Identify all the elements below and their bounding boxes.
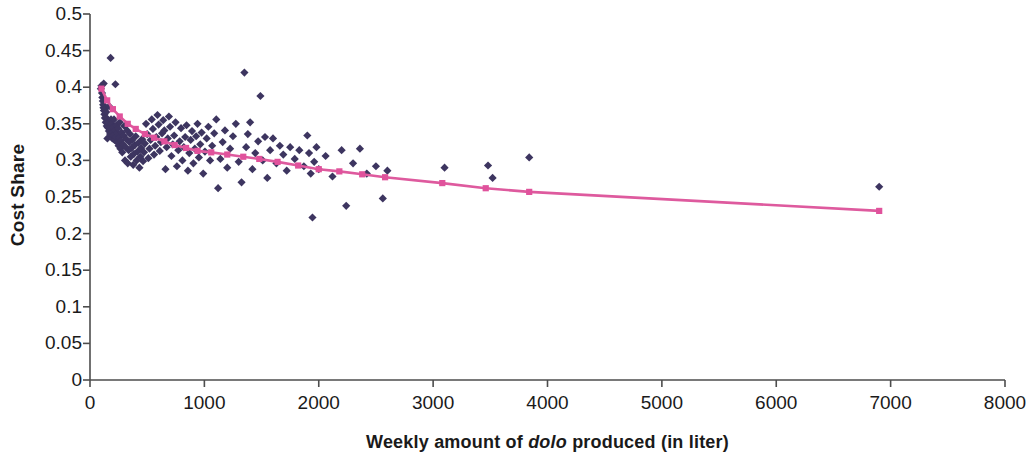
scatter-point bbox=[161, 165, 169, 173]
scatter-point bbox=[216, 155, 224, 163]
trend-line-marker bbox=[194, 148, 200, 154]
scatter-point bbox=[379, 194, 387, 202]
trend-line-marker bbox=[295, 162, 301, 168]
scatter-point bbox=[196, 140, 204, 148]
scatter-point bbox=[276, 142, 284, 150]
trend-line-marker bbox=[876, 208, 882, 214]
x-axis-tick-label: 6000 bbox=[731, 392, 821, 414]
x-axis-title-before: Weekly amount of bbox=[366, 432, 528, 452]
scatter-point bbox=[214, 184, 222, 192]
x-axis-tick-labels: 010002000300040005000600070008000 bbox=[0, 392, 1035, 418]
x-axis-tick-label: 2000 bbox=[274, 392, 364, 414]
trend-line-marker bbox=[161, 138, 167, 144]
trend-line-marker bbox=[256, 156, 262, 162]
trend-line-marker bbox=[133, 126, 139, 132]
scatter-point bbox=[248, 165, 256, 173]
scatter-point bbox=[322, 152, 330, 160]
trend-line-marker bbox=[110, 106, 116, 112]
trend-line-marker bbox=[142, 131, 148, 137]
scatter-point bbox=[167, 152, 175, 160]
x-axis-tick-label: 0 bbox=[45, 392, 135, 414]
scatter-point bbox=[203, 134, 211, 142]
trend-line-marker bbox=[359, 171, 365, 177]
scatter-point bbox=[149, 125, 157, 133]
series-0 bbox=[97, 54, 884, 222]
scatter-point bbox=[279, 150, 287, 158]
scatter-point bbox=[229, 132, 237, 140]
scatter-point bbox=[263, 174, 271, 182]
scatter-point bbox=[372, 162, 380, 170]
scatter-point bbox=[106, 54, 114, 62]
scatter-point bbox=[356, 145, 364, 153]
scatter-point bbox=[189, 159, 197, 167]
scatter-point bbox=[312, 143, 320, 151]
scatter-chart: Cost Share 00.050.10.150.20.250.30.350.4… bbox=[0, 0, 1035, 466]
scatter-point bbox=[212, 115, 220, 123]
scatter-point bbox=[232, 120, 240, 128]
scatter-point bbox=[286, 143, 294, 151]
scatter-point bbox=[240, 68, 248, 76]
scatter-point bbox=[261, 133, 269, 141]
scatter-point bbox=[171, 118, 179, 126]
scatter-point bbox=[307, 169, 315, 177]
trend-line-marker bbox=[104, 97, 110, 103]
scatter-point bbox=[256, 92, 264, 100]
scatter-point bbox=[184, 167, 192, 175]
scatter-point bbox=[208, 142, 216, 150]
scatter-point bbox=[199, 169, 207, 177]
trend-line-marker bbox=[151, 135, 157, 141]
scatter-point bbox=[489, 174, 497, 182]
trend-line bbox=[101, 89, 879, 211]
scatter-point bbox=[338, 146, 346, 154]
scatter-point bbox=[525, 153, 533, 161]
scatter-point bbox=[254, 137, 262, 145]
scatter-point bbox=[295, 146, 303, 154]
x-axis-tick-label: 1000 bbox=[159, 392, 249, 414]
trend-line-marker bbox=[483, 185, 489, 191]
scatter-point bbox=[310, 158, 318, 166]
scatter-point bbox=[210, 129, 218, 137]
scatter-point bbox=[266, 146, 274, 154]
trend-line-marker bbox=[382, 174, 388, 180]
scatter-point bbox=[223, 164, 231, 172]
trend-line-marker bbox=[439, 180, 445, 186]
trend-line-marker bbox=[183, 145, 189, 151]
scatter-point bbox=[308, 213, 316, 221]
trend-line-marker bbox=[240, 154, 246, 160]
x-axis-tick-label: 4000 bbox=[503, 392, 593, 414]
scatter-point bbox=[283, 167, 291, 175]
scatter-point bbox=[246, 118, 254, 126]
scatter-point bbox=[173, 162, 181, 170]
scatter-point bbox=[242, 143, 250, 151]
scatter-point bbox=[206, 156, 214, 164]
scatter-point bbox=[328, 172, 336, 180]
scatter-point bbox=[383, 167, 391, 175]
scatter-point bbox=[305, 149, 313, 157]
trend-line-marker bbox=[336, 168, 342, 174]
x-axis-title-after: produced (in liter) bbox=[567, 432, 729, 452]
x-axis-tick-label: 8000 bbox=[960, 392, 1035, 414]
x-axis-tick-label: 5000 bbox=[617, 392, 707, 414]
scatter-point bbox=[193, 120, 201, 128]
x-axis-tick-label: 7000 bbox=[846, 392, 936, 414]
scatter-point bbox=[148, 115, 156, 123]
trend-line-marker bbox=[125, 121, 131, 127]
x-axis-title: Weekly amount of dolo produced (in liter… bbox=[90, 432, 1005, 453]
trend-line-marker bbox=[526, 189, 532, 195]
scatter-point bbox=[142, 120, 150, 128]
scatter-point bbox=[153, 111, 161, 119]
scatter-point bbox=[349, 159, 357, 167]
trend-line-marker bbox=[224, 151, 230, 157]
scatter-point bbox=[875, 183, 883, 191]
trend-line-marker bbox=[274, 159, 280, 165]
scatter-point bbox=[269, 134, 277, 142]
scatter-point bbox=[237, 178, 245, 186]
scatter-point bbox=[484, 161, 492, 169]
trend-line-marker bbox=[316, 166, 322, 172]
x-axis-tick-label: 3000 bbox=[388, 392, 478, 414]
scatter-point bbox=[195, 153, 203, 161]
scatter-point bbox=[291, 155, 299, 163]
scatter-point bbox=[440, 164, 448, 172]
series-1 bbox=[98, 86, 882, 214]
trend-line-marker bbox=[208, 149, 214, 155]
